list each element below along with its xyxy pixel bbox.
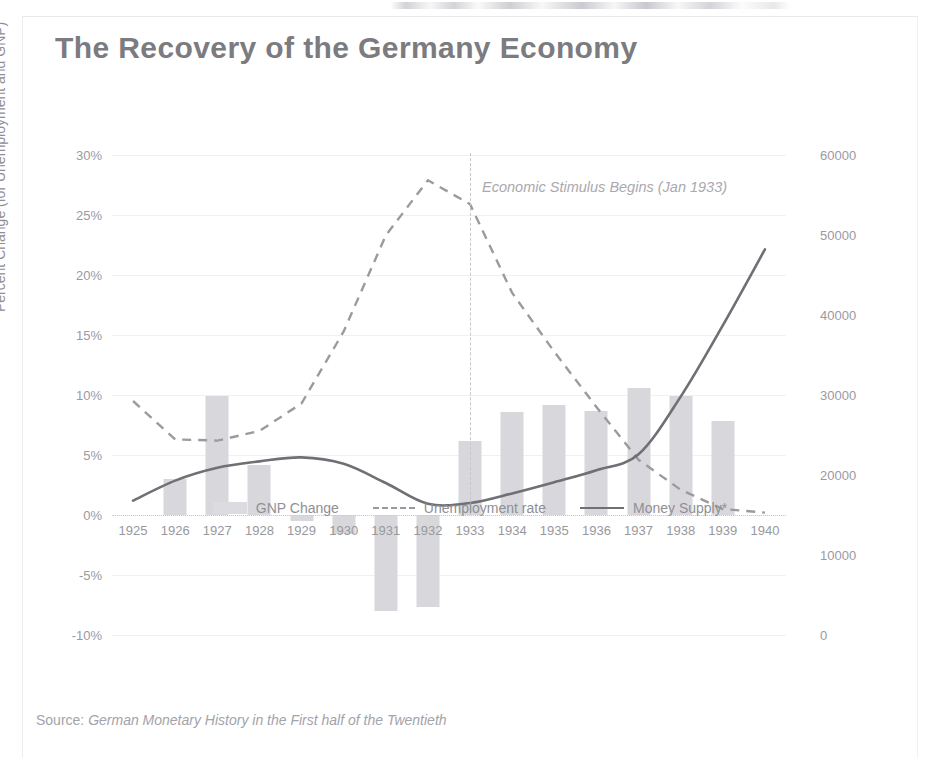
x-axis-tick-label: 1930	[329, 523, 358, 538]
y-axis-left-title: Percent Change (for Unemployment and GNP…	[0, 22, 8, 312]
y-axis-right-tick-label: 10000	[820, 548, 890, 563]
bar-swatch-icon	[213, 502, 247, 514]
x-axis-tick-label: 1933	[456, 523, 485, 538]
chart-plot-area: -10%-5%0%5%10%15%20%25%30% 0100002000030…	[112, 155, 786, 635]
source-text: German Monetary History in the First hal…	[88, 712, 446, 728]
y-axis-left-tick-label: 15%	[42, 328, 102, 343]
x-axis-tick-label: 1937	[624, 523, 653, 538]
y-axis-left-tick-label: 30%	[42, 148, 102, 163]
y-axis-left-tick-label: -10%	[42, 628, 102, 643]
legend-label-gnp-change: GNP Change	[256, 500, 339, 516]
scanned-page-top-strip	[0, 0, 940, 14]
x-axis-tick-label: 1926	[161, 523, 190, 538]
money-supply-line	[133, 249, 765, 505]
gridline-y	[112, 635, 786, 636]
dashed-line-swatch-icon	[373, 507, 415, 509]
x-axis-tick-label: 1928	[245, 523, 274, 538]
y-axis-left-tick-label: 25%	[42, 208, 102, 223]
y-axis-left-tick-label: 5%	[42, 448, 102, 463]
legend-item-money-supply[interactable]: Money Supply*	[580, 500, 727, 516]
legend-label-unemployment-rate: Unemployment rate	[424, 500, 546, 516]
x-axis-tick-label: 1929	[287, 523, 316, 538]
y-axis-left-tick-label: 20%	[42, 268, 102, 283]
stimulus-marker-line	[470, 153, 471, 515]
y-axis-left-tick-label: -5%	[42, 568, 102, 583]
x-axis-tick-label: 1932	[413, 523, 442, 538]
source-note: Source: German Monetary History in the F…	[36, 712, 447, 728]
y-axis-right-tick-label: 40000	[820, 308, 890, 323]
chart-legend: GNP Change Unemployment rate Money Suppl…	[0, 500, 940, 516]
y-axis-right-tick-label: 0	[820, 628, 890, 643]
legend-item-gnp-change[interactable]: GNP Change	[213, 500, 339, 516]
y-axis-right-tick-label: 60000	[820, 148, 890, 163]
unemployment-rate-line	[133, 180, 765, 512]
x-axis-tick-label: 1931	[371, 523, 400, 538]
legend-label-money-supply: Money Supply*	[633, 500, 727, 516]
x-axis-tick-label: 1936	[582, 523, 611, 538]
y-axis-left-tick-label: 10%	[42, 388, 102, 403]
x-axis-tick-label: 1925	[119, 523, 148, 538]
x-axis-tick-label: 1935	[540, 523, 569, 538]
y-axis-right-tick-label: 30000	[820, 388, 890, 403]
x-axis-tick-label: 1939	[708, 523, 737, 538]
x-axis-tick-label: 1938	[666, 523, 695, 538]
x-axis-tick-label: 1940	[750, 523, 779, 538]
x-axis-tick-label: 1934	[498, 523, 527, 538]
source-prefix: Source:	[36, 712, 84, 728]
page-title: The Recovery of the Germany Economy	[55, 28, 655, 69]
scan-artifact-text	[390, 2, 790, 9]
x-axis-tick-label: 1927	[203, 523, 232, 538]
legend-item-unemployment-rate[interactable]: Unemployment rate	[373, 500, 546, 516]
y-axis-right-tick-label: 50000	[820, 228, 890, 243]
stimulus-marker-label: Economic Stimulus Begins (Jan 1933)	[482, 179, 727, 195]
solid-line-swatch-icon	[580, 507, 624, 509]
y-axis-right-tick-label: 20000	[820, 468, 890, 483]
series-lines	[112, 155, 786, 635]
